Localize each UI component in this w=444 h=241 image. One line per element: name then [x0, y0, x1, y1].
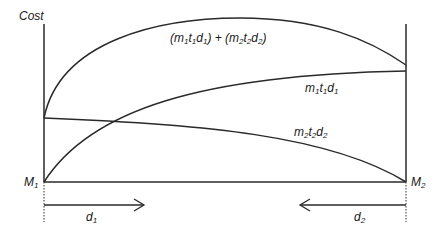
- label-m1: M1: [24, 176, 38, 190]
- label-m2: M2: [411, 176, 425, 190]
- label-m2t2d2: m2t2d2: [294, 126, 327, 140]
- curve-m1t1d1: [44, 71, 406, 182]
- y-axis-label: Cost: [19, 10, 44, 22]
- curve-m2t2d2: [44, 118, 406, 182]
- label-d1: d1: [86, 211, 97, 225]
- label-m1t1d1: m1t1d1: [305, 82, 338, 96]
- label-d2: d2: [354, 211, 365, 225]
- label-total-cost: (m1t1d1) + (m2t2d2): [170, 32, 266, 46]
